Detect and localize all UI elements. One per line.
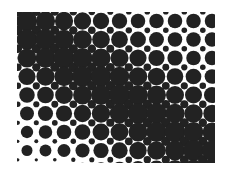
dot-pattern	[0, 0, 230, 170]
halftone-image	[0, 0, 230, 170]
